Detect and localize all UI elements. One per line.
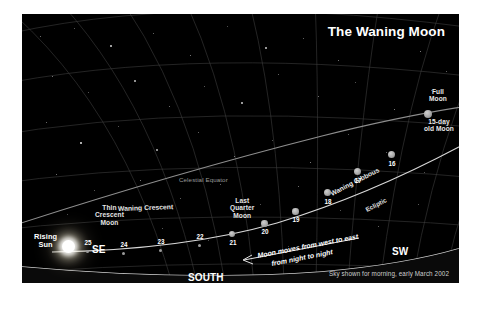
moon-number-16: 16 bbox=[380, 160, 404, 167]
fifteen-day-moon-label: 15-day old Moon bbox=[424, 118, 454, 133]
sky-panel: Moon moves from west to east from night … bbox=[22, 14, 459, 283]
moon-number-24: 24 bbox=[112, 241, 136, 248]
star bbox=[265, 47, 267, 49]
thin-crescent-line2: Crescent bbox=[95, 211, 124, 218]
moon-number-23: 23 bbox=[149, 238, 173, 245]
full-moon-label-line1: Full bbox=[429, 88, 447, 95]
thin-crescent-line3: Moon bbox=[95, 219, 124, 226]
ecliptic-label: Ecliptic bbox=[364, 196, 388, 214]
moon-day-22 bbox=[198, 244, 201, 247]
thin-crescent-line1: Thin bbox=[95, 204, 124, 211]
rising-sun-label: Rising Sun bbox=[34, 233, 57, 250]
ecliptic-text: Ecliptic bbox=[364, 196, 388, 214]
star bbox=[227, 26, 228, 27]
moon-day-17 bbox=[354, 168, 361, 175]
star bbox=[110, 45, 112, 47]
fifteen-day-label-line1: 15-day bbox=[424, 118, 454, 125]
celestial-equator-label: Celestial Equator bbox=[179, 177, 228, 184]
star bbox=[288, 246, 289, 247]
waning-crescent-label: Waning Crescent bbox=[118, 203, 174, 213]
compass-southwest: SW bbox=[392, 246, 408, 257]
star bbox=[156, 149, 158, 151]
last-quarter-line2: Quarter bbox=[230, 204, 255, 211]
last-quarter-label: Last Quarter Moon bbox=[230, 197, 255, 219]
star bbox=[134, 80, 136, 82]
full-moon-label: Full Moon bbox=[429, 88, 447, 103]
star bbox=[272, 140, 273, 141]
chart-credit: Sky shown for morning, early March 2002 bbox=[329, 270, 449, 277]
star bbox=[204, 86, 205, 87]
waning-crescent-text: Waning Crescent bbox=[118, 203, 174, 213]
moon-number-21: 21 bbox=[221, 239, 245, 246]
moon-number-17: 17 bbox=[346, 177, 370, 184]
star bbox=[355, 82, 356, 83]
compass-south: SOUTH bbox=[188, 272, 224, 283]
moon-day-20 bbox=[261, 220, 268, 227]
moon-day-16 bbox=[388, 151, 395, 158]
rising-sun-marker bbox=[62, 240, 75, 253]
star bbox=[94, 190, 95, 191]
star bbox=[241, 102, 243, 104]
last-quarter-line1: Last bbox=[230, 197, 255, 204]
annotation-text: Moon moves from west to east from night … bbox=[257, 232, 359, 267]
rising-sun-label-line2: Sun bbox=[34, 241, 57, 249]
moon-number-18: 18 bbox=[316, 198, 340, 205]
full-moon-label-line2: Moon bbox=[429, 95, 447, 102]
ecliptic-line bbox=[52, 142, 459, 252]
star bbox=[260, 204, 261, 205]
moon-full bbox=[424, 110, 432, 118]
moon-day-18 bbox=[324, 189, 331, 196]
moon-day-19 bbox=[292, 208, 299, 215]
page-title: The Waning Moon bbox=[328, 24, 445, 39]
moon-day-24 bbox=[122, 252, 125, 255]
star bbox=[118, 126, 119, 127]
star-chart-page: Moon moves from west to east from night … bbox=[0, 0, 481, 311]
moon-day-23 bbox=[159, 249, 162, 252]
moon-number-20: 20 bbox=[253, 228, 277, 235]
moon-number-22: 22 bbox=[188, 233, 212, 240]
moon-day-25 bbox=[86, 250, 89, 253]
star bbox=[208, 240, 209, 241]
star bbox=[340, 210, 341, 211]
moon-number-19: 19 bbox=[284, 216, 308, 223]
star bbox=[74, 28, 75, 29]
last-quarter-line3: Moon bbox=[230, 212, 255, 219]
fifteen-day-label-line2: old Moon bbox=[424, 125, 454, 132]
compass-southeast: SE bbox=[92, 244, 106, 255]
star bbox=[88, 92, 89, 93]
star bbox=[424, 172, 425, 173]
moon-day-21 bbox=[229, 231, 235, 237]
star bbox=[67, 214, 68, 215]
thin-crescent-label: Thin Crescent Moon bbox=[95, 204, 124, 226]
